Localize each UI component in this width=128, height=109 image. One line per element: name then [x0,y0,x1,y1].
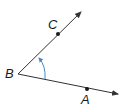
point-a [85,87,89,91]
label-b: B [5,66,14,81]
label-a: A [80,92,90,107]
point-c [56,32,60,36]
angle-diagram: B C A [0,0,128,109]
angle-arc-arrow-icon [39,58,45,79]
label-c: C [48,17,58,32]
ray-ba [18,74,118,94]
